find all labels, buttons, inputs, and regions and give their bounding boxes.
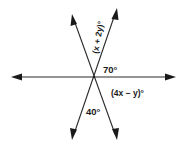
arrowhead-right-icon — [165, 74, 176, 81]
arrowhead-top-left-icon — [71, 14, 78, 26]
intersection-point — [93, 76, 95, 78]
arrowhead-bottom-left-icon — [70, 128, 77, 140]
arrowhead-top-right-icon — [112, 8, 119, 20]
geometry-diagram: (x + 2y)° 70° (4x − y)° 40° — [0, 0, 187, 157]
label-right-lower-angle: (4x − y)° — [111, 88, 145, 98]
arrowhead-left-icon — [11, 74, 22, 81]
arrowhead-bottom-right-icon — [112, 128, 119, 140]
label-40-degrees: 40° — [86, 106, 101, 117]
label-70-degrees: 70° — [103, 64, 118, 75]
